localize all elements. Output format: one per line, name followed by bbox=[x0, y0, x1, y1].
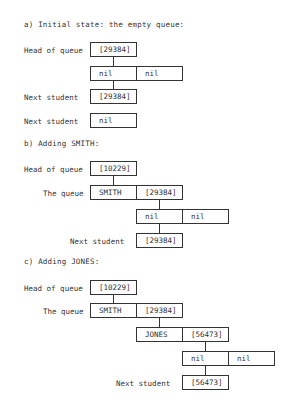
node-data-cell: nil bbox=[136, 209, 183, 224]
the-queue-label: The queue bbox=[43, 189, 84, 198]
next-student-box: [29384] bbox=[90, 89, 137, 104]
next-student-box: nil bbox=[90, 113, 137, 128]
head-pointer-box: [10229] bbox=[90, 280, 137, 295]
node-link-cell: [29384] bbox=[136, 303, 183, 318]
section-b-heading: b) Adding SMITH: bbox=[24, 139, 99, 148]
next-student-label: Next student bbox=[24, 93, 78, 102]
node-link-cell: nil bbox=[136, 66, 183, 81]
section-a-heading: a) Initial state: the empty queue: bbox=[24, 20, 184, 29]
node-link-cell: nil bbox=[182, 209, 229, 224]
node-data-cell: nil bbox=[182, 351, 229, 366]
head-of-queue-label: Head of queue bbox=[24, 46, 83, 55]
node-link-cell: [56473] bbox=[182, 327, 229, 342]
the-queue-label: The queue bbox=[43, 307, 84, 316]
head-pointer-box: [29384] bbox=[90, 42, 137, 57]
head-of-queue-label: Head of queue bbox=[24, 284, 83, 293]
next-student-label: Next student bbox=[70, 237, 124, 246]
next-student-box: [56473] bbox=[182, 375, 229, 390]
node-link-cell: [29384] bbox=[136, 185, 183, 200]
section-c-heading: c) Adding JONES: bbox=[24, 257, 99, 266]
next-student-box: [29384] bbox=[136, 233, 183, 248]
next-student-label: Next student bbox=[116, 379, 170, 388]
node-data-cell: JONES bbox=[136, 327, 183, 342]
node-data-cell: SMITH bbox=[90, 303, 137, 318]
node-data-cell: nil bbox=[90, 66, 137, 81]
next-student-label: Next student bbox=[24, 117, 78, 126]
node-link-cell: nil bbox=[228, 351, 275, 366]
head-pointer-box: [10229] bbox=[90, 161, 137, 176]
node-data-cell: SMITH bbox=[90, 185, 137, 200]
head-of-queue-label: Head of queue bbox=[24, 165, 83, 174]
